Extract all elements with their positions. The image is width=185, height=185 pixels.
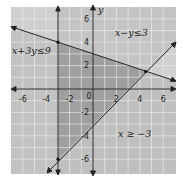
svg-text:2: 2 <box>84 61 89 70</box>
inequality-graph: -6 -4 -2 0 2 4 6 6 4 2 -2 -4 -6 y x+3y≤9… <box>0 0 185 185</box>
label-x-minus-y-le-3: x−y≤3 <box>115 27 148 38</box>
svg-text:2: 2 <box>114 95 119 104</box>
svg-text:-6: -6 <box>19 95 27 104</box>
svg-text:-4: -4 <box>42 95 50 104</box>
vertex-4.5-1.5 <box>144 70 147 73</box>
svg-text:-2: -2 <box>81 108 89 117</box>
vertex-neg3-4 <box>56 41 59 44</box>
y-axis-label: y <box>97 4 104 15</box>
label-x-plus-3y-le-9: x+3y≤9 <box>12 45 51 56</box>
svg-text:6: 6 <box>161 95 166 104</box>
svg-text:6: 6 <box>84 15 89 24</box>
svg-text:-4: -4 <box>81 132 89 141</box>
label-x-ge-neg3: x ≥ −3 <box>118 128 151 139</box>
svg-text:4: 4 <box>84 38 89 47</box>
vertex-neg3-neg6 <box>56 158 59 161</box>
svg-text:0: 0 <box>86 92 91 101</box>
svg-text:4: 4 <box>137 95 142 104</box>
svg-text:-6: -6 <box>81 155 89 164</box>
y-axis-arrow-bottom <box>91 171 96 176</box>
y-axis-arrow-top <box>91 5 96 10</box>
svg-text:-2: -2 <box>66 95 74 104</box>
